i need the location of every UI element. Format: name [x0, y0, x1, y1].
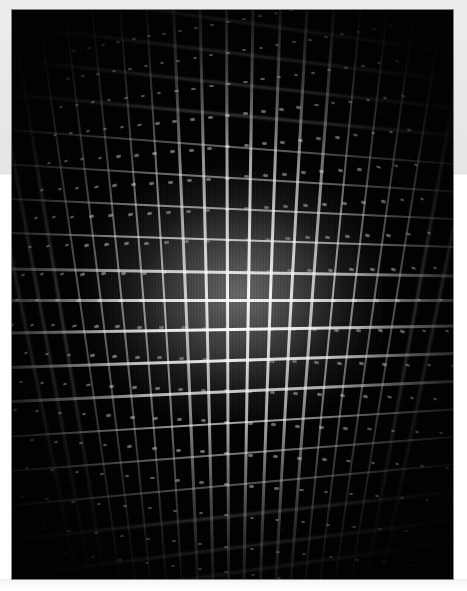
grid-intersection-dot: [409, 564, 413, 567]
grid-intersection-dot: [309, 298, 315, 302]
grid-intersection-dot: [144, 241, 150, 245]
grid-intersection-dot: [326, 523, 331, 526]
grid-intersection-dot: [55, 298, 60, 302]
grid-intersection-dot: [198, 568, 202, 570]
grid-intersection-dot: [421, 329, 426, 333]
grid-intersection-dot: [201, 388, 206, 391]
grid-intersection-dot: [386, 396, 391, 400]
grid-intersection-dot: [383, 96, 388, 100]
grid-intersection-dot: [90, 354, 95, 358]
grid-intersection-dot: [427, 364, 432, 368]
grid-intersection-dot: [18, 380, 23, 384]
grid-intersection-dot: [97, 502, 101, 505]
grid-intersection-dot: [155, 386, 160, 389]
grid-intersection-dot: [118, 298, 123, 302]
grid-intersection-dot: [15, 524, 19, 527]
grid-intersection-dot: [268, 328, 274, 331]
grid-intersection-dot: [225, 208, 230, 211]
grid-intersection-dot: [172, 540, 176, 543]
grid-intersection-dot: [30, 323, 35, 327]
grid-intersection-dot: [125, 475, 130, 478]
grid-intersection-dot: [46, 161, 51, 165]
grid-intersection-dot: [132, 385, 137, 388]
grid-intersection-dot: [176, 59, 181, 62]
grid-intersection-dot: [265, 238, 271, 241]
grid-intersection-dot: [296, 106, 301, 109]
grid-intersection-dot: [224, 571, 228, 573]
grid-intersection-dot: [162, 271, 168, 275]
grid-intersection-dot: [249, 485, 254, 488]
grid-intersection-dot: [75, 471, 80, 474]
grid-intersection-dot: [35, 298, 40, 302]
grid-intersection-dot: [40, 381, 45, 385]
grid-intersection-dot: [395, 298, 400, 302]
grid-intersection-dot: [365, 98, 370, 102]
grid-intersection-dot: [385, 233, 390, 237]
grid-intersection-dot: [391, 429, 396, 433]
grid-intersection-dot: [170, 150, 175, 153]
grid-intersection-dot: [243, 81, 248, 84]
grid-intersection-dot: [274, 487, 279, 490]
grid-intersection-dot: [183, 271, 189, 274]
grid-intersection-dot: [153, 417, 158, 420]
grid-intersection-dot: [53, 133, 58, 137]
grid-intersection-dot: [101, 44, 105, 47]
grid-intersection-dot: [365, 234, 370, 238]
grid-intersection-dot: [242, 18, 246, 20]
grid-intersection-dot: [275, 44, 279, 47]
grid-intersection-dot: [250, 517, 255, 520]
grid-intersection-dot: [277, 76, 282, 79]
grid-intersection-dot: [142, 271, 148, 275]
grid-intersection-dot: [411, 267, 416, 271]
grid-intersection-dot: [404, 530, 408, 533]
grid-intersection-dot: [57, 188, 62, 192]
grid-intersection-dot: [194, 26, 198, 29]
grid-intersection-dot: [71, 500, 75, 503]
grid-intersection-dot: [325, 235, 331, 239]
grid-intersection-dot: [140, 94, 145, 97]
grid-intersection-dot: [182, 298, 188, 301]
grid-intersection-dot: [164, 241, 170, 245]
grid-intersection-dot: [86, 383, 91, 387]
grid-intersection-dot: [356, 30, 360, 33]
grid-intersection-dot: [166, 210, 172, 213]
grid-intersection-dot: [64, 553, 68, 556]
grid-intersection-dot: [405, 232, 410, 236]
grid-intersection-dot: [149, 181, 154, 184]
grid-intersection-dot: [319, 170, 324, 174]
grid-intersection-dot: [410, 397, 415, 401]
grid-intersection-dot: [416, 298, 421, 302]
grid-intersection-dot: [224, 327, 230, 330]
grid-intersection-dot: [377, 329, 382, 333]
grid-intersection-dot: [276, 551, 280, 554]
photo-image-area: [12, 10, 453, 579]
grid-intersection-dot: [329, 556, 333, 559]
grid-intersection-dot: [199, 481, 204, 484]
grid-intersection-dot: [280, 140, 285, 143]
grid-intersection-dot: [40, 189, 45, 193]
grid-intersection-dot: [420, 197, 425, 201]
grid-intersection-dot: [327, 69, 332, 72]
grid-intersection-dot: [94, 532, 98, 535]
grid-intersection-dot: [122, 505, 127, 508]
grid-intersection-dot: [154, 122, 159, 125]
grid-intersection-dot: [41, 527, 45, 530]
grid-intersection-dot: [291, 41, 295, 44]
grid-intersection-dot: [120, 535, 124, 538]
grid-intersection-dot: [433, 266, 438, 270]
grid-intersection-dot: [89, 214, 94, 218]
grid-intersection-dot: [355, 558, 359, 561]
grid-intersection-dot: [100, 473, 105, 476]
grid-intersection-dot: [152, 152, 157, 155]
grid-intersection-dot: [382, 362, 387, 366]
grid-intersection-dot: [75, 186, 80, 190]
grid-intersection-dot: [35, 410, 40, 413]
grid-intersection-dot: [45, 498, 49, 501]
grid-intersection-dot: [121, 271, 126, 275]
grid-intersection-dot: [148, 507, 153, 510]
grid-intersection-dot: [415, 430, 420, 434]
grid-intersection-dot: [349, 268, 355, 272]
grid-intersection-dot: [109, 384, 114, 388]
grid-intersection-dot: [103, 443, 108, 446]
grid-intersection-dot: [287, 269, 293, 273]
